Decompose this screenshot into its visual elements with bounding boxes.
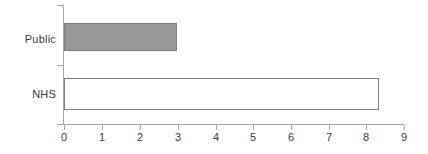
bar-public [64, 23, 177, 51]
x-axis-line [63, 124, 404, 125]
x-axis-tick-7 [329, 125, 330, 130]
x-axis-tick-label-3: 3 [168, 131, 188, 144]
x-axis-tick-label-7: 7 [319, 131, 339, 144]
x-axis-tick-5 [253, 125, 254, 130]
bar-nhs [64, 78, 379, 110]
x-axis-tick-4 [216, 125, 217, 130]
y-axis-tick-bottom [57, 124, 64, 125]
x-axis-tick-label-2: 2 [130, 131, 150, 144]
y-axis-label-public: Public [25, 33, 56, 45]
x-axis-tick-label-4: 4 [206, 131, 226, 144]
x-axis-tick-8 [366, 125, 367, 130]
x-axis-tick-label-1: 1 [92, 131, 112, 144]
y-axis-label-nhs: NHS [32, 88, 56, 100]
x-axis-tick-label-6: 6 [281, 131, 301, 144]
bar-chart: Public NHS 0 1 2 3 4 5 6 7 8 9 [0, 0, 428, 154]
x-axis-tick-1 [102, 125, 103, 130]
y-axis-tick-top [57, 5, 64, 6]
x-axis-tick-label-8: 8 [356, 131, 376, 144]
x-axis-tick-label-0: 0 [54, 131, 74, 144]
x-axis-tick-9 [404, 125, 405, 130]
x-axis-tick-label-9: 9 [394, 131, 414, 144]
y-axis-tick-mid [57, 65, 64, 66]
x-axis-tick-2 [140, 125, 141, 130]
x-axis-tick-0 [64, 125, 65, 130]
x-axis-tick-label-5: 5 [243, 131, 263, 144]
x-axis-tick-3 [178, 125, 179, 130]
x-axis-tick-6 [291, 125, 292, 130]
